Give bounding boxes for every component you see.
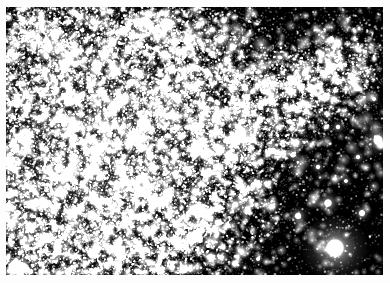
astronomical-image-figure: Black-and-white astronomical photograph … xyxy=(0,0,390,283)
star-field-canvas xyxy=(6,7,383,275)
star-field-plate xyxy=(6,7,383,275)
